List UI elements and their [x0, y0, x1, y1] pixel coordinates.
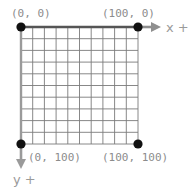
label-top-right: (100, 0) — [102, 8, 155, 19]
y-axis-direction-label: y + — [13, 173, 36, 186]
point-top-right — [133, 22, 142, 31]
label-origin: (0, 0) — [11, 8, 51, 19]
point-origin — [16, 22, 25, 31]
point-bottom-right — [133, 139, 142, 148]
coordinate-system-diagram: (0, 0) (100, 0) (0, 100) (100, 100) x + … — [0, 0, 194, 196]
x-axis-direction-label: x + — [166, 21, 189, 34]
point-bottom-left — [16, 139, 25, 148]
label-bottom-left: (0, 100) — [28, 152, 81, 163]
diagram-canvas — [0, 0, 194, 196]
label-bottom-right: (100, 100) — [102, 152, 168, 163]
